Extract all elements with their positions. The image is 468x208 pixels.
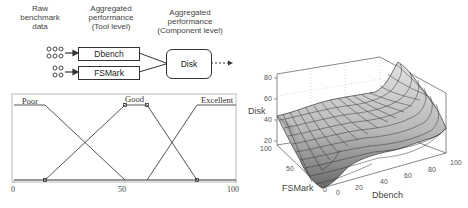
z-tick-60: 60	[264, 95, 272, 102]
z-tick-20: 20	[264, 137, 272, 144]
x-tick-60: 60	[404, 172, 412, 179]
x-tick-80: 80	[428, 166, 436, 173]
x-tick-0: 0	[336, 189, 340, 196]
x-axis-label: Dbench	[372, 190, 403, 200]
z-tick-40: 40	[264, 116, 272, 123]
x-tick-100: 100	[450, 159, 462, 166]
x-tick-40: 40	[380, 178, 388, 185]
y-tick-50: 50	[286, 165, 294, 172]
surface-plot	[0, 0, 468, 208]
x-tick-20: 20	[355, 184, 363, 191]
y-tick-100: 100	[260, 145, 272, 152]
z-tick-80: 80	[264, 74, 272, 81]
y-axis-label: FSMark	[282, 183, 314, 193]
y-tick-0: 0	[323, 186, 327, 193]
z-axis-label: Disk	[248, 106, 266, 116]
